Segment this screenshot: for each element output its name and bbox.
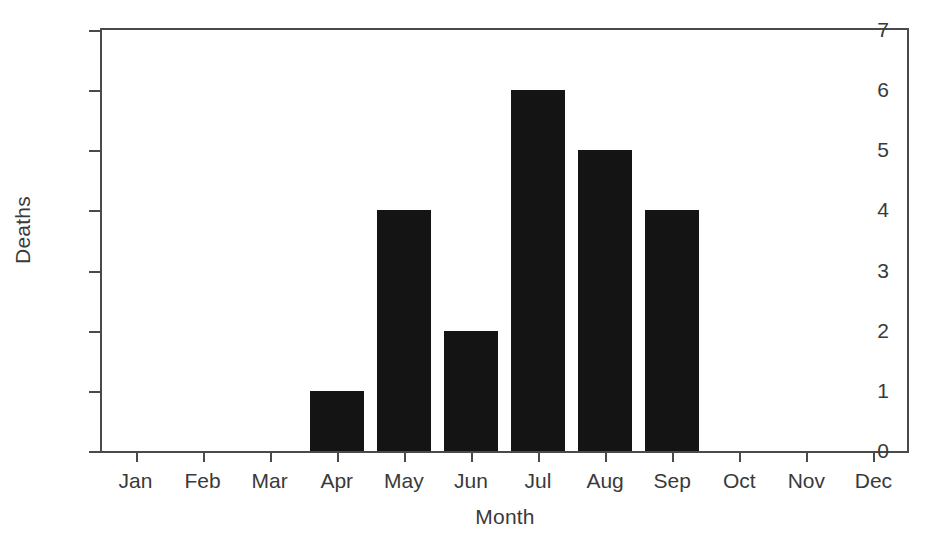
bar-chart-figure: Deaths 01234567 JanFebMarAprMayJunJulAug… [0, 0, 932, 554]
x-axis-tick-mark [270, 451, 272, 462]
y-axis-tick-label: 2 [849, 319, 889, 343]
x-axis-tick-mark [404, 451, 406, 462]
x-axis-tick-mark [873, 451, 875, 462]
x-axis-tick-mark [605, 451, 607, 462]
y-axis-tick-mark [89, 271, 101, 273]
bar [645, 210, 699, 451]
x-axis-tick-label: Dec [855, 469, 892, 493]
x-axis-tick-mark [538, 451, 540, 462]
bar [511, 90, 565, 451]
y-axis-tick-mark [89, 30, 101, 32]
x-axis-tick-label: May [384, 469, 424, 493]
x-axis-tick-label: Nov [788, 469, 825, 493]
bar [578, 150, 632, 451]
y-axis-tick-mark [89, 210, 101, 212]
x-axis-tick-label: Aug [586, 469, 623, 493]
y-axis-tick-label: 7 [849, 18, 889, 42]
y-axis-title-text: Deaths [11, 196, 35, 264]
x-axis-tick-mark [471, 451, 473, 462]
bar [310, 391, 364, 451]
x-axis-tick-label: Jun [454, 469, 488, 493]
y-axis-tick-mark [89, 391, 101, 393]
y-axis-tick-label: 6 [849, 78, 889, 102]
y-axis-title: Deaths [0, 0, 46, 460]
y-axis-tick-mark [89, 150, 101, 152]
plot-area: 01234567 JanFebMarAprMayJunJulAugSepOctN… [100, 28, 909, 453]
x-axis-tick-mark [806, 451, 808, 462]
x-axis-tick-label: Mar [252, 469, 288, 493]
y-axis-tick-label: 1 [849, 379, 889, 403]
x-axis-tick-label: Feb [185, 469, 221, 493]
x-axis-tick-label: Jan [119, 469, 153, 493]
y-axis-tick-label: 0 [849, 439, 889, 463]
y-axis-tick-label: 3 [849, 259, 889, 283]
x-axis-tick-mark [672, 451, 674, 462]
y-axis-tick-label: 4 [849, 198, 889, 222]
y-axis-tick-label: 5 [849, 138, 889, 162]
x-axis-tick-label: Sep [654, 469, 691, 493]
x-axis-tick-mark [739, 451, 741, 462]
x-axis-tick-label: Oct [723, 469, 756, 493]
x-axis-tick-label: Jul [525, 469, 552, 493]
x-axis-tick-mark [136, 451, 138, 462]
y-axis-tick-mark [89, 451, 101, 453]
x-axis-tick-mark [337, 451, 339, 462]
x-axis-title: Month [100, 505, 910, 529]
y-axis-tick-mark [89, 331, 101, 333]
y-axis-tick-mark [89, 90, 101, 92]
x-axis-tick-mark [203, 451, 205, 462]
bar [377, 210, 431, 451]
bar [444, 331, 498, 451]
x-axis-tick-label: Apr [320, 469, 353, 493]
